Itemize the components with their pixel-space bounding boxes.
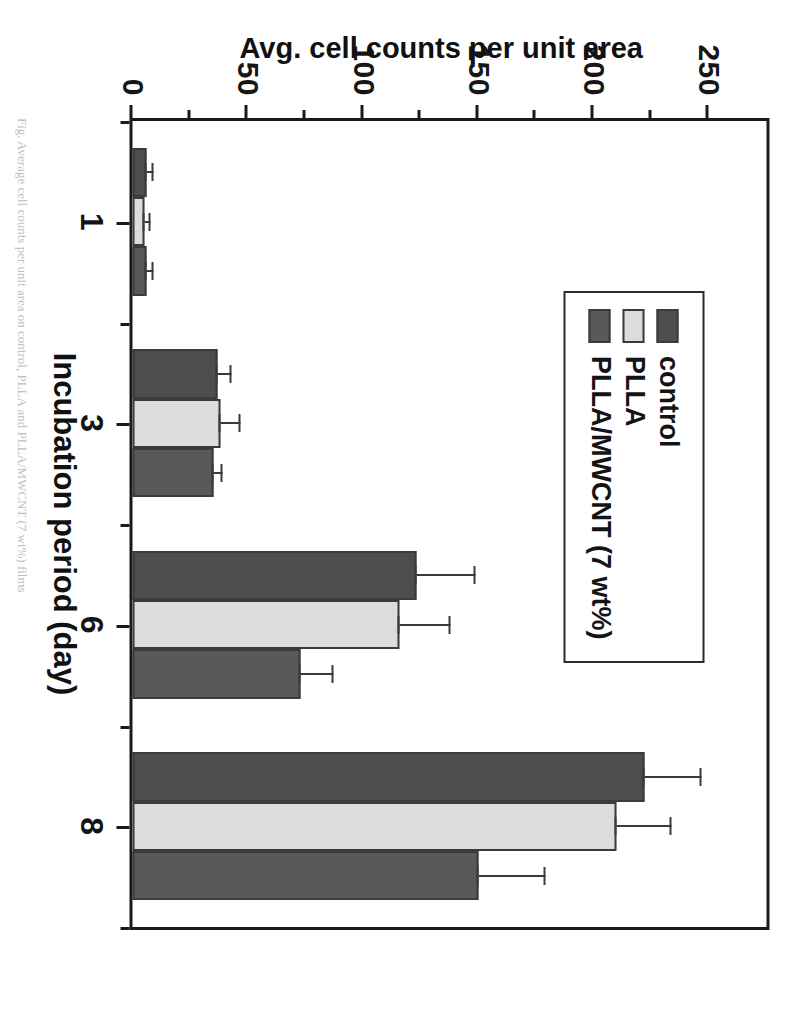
error-bar bbox=[144, 197, 151, 246]
legend-item-label: control bbox=[654, 356, 681, 448]
legend-item-label: PLLA bbox=[620, 356, 647, 427]
error-bar-cap bbox=[229, 365, 231, 383]
bar-chart-figure: controlPLLAPLLA/MWCNT (7 wt%) 0501001502… bbox=[0, 0, 799, 1010]
error-bar-cap bbox=[474, 566, 476, 584]
error-bar-cap bbox=[699, 768, 701, 786]
x-axis-tick bbox=[116, 826, 129, 829]
error-bar bbox=[217, 349, 231, 398]
y-axis-minor-tick bbox=[532, 110, 535, 118]
error-bar-cap-lower bbox=[614, 817, 616, 835]
legend-item[interactable]: PLLA bbox=[620, 309, 647, 639]
y-axis-minor-tick bbox=[302, 110, 305, 118]
y-axis-tick bbox=[244, 105, 247, 118]
error-bar bbox=[478, 851, 545, 900]
bar bbox=[132, 851, 478, 900]
x-axis-boundary-tick bbox=[120, 927, 129, 930]
y-axis-tick bbox=[705, 105, 708, 118]
y-axis-minor-tick bbox=[417, 110, 420, 118]
legend-swatch-icon bbox=[589, 309, 611, 343]
bar bbox=[132, 399, 220, 448]
error-bar-cap bbox=[148, 213, 150, 231]
error-bar-cap bbox=[238, 414, 240, 432]
x-axis-boundary-tick bbox=[120, 323, 129, 326]
error-bar-cap bbox=[151, 262, 153, 280]
error-bar-cap-lower bbox=[211, 464, 213, 482]
x-axis-boundary-tick bbox=[120, 121, 129, 124]
y-axis-tick bbox=[590, 105, 593, 118]
legend-swatch-icon bbox=[623, 309, 645, 343]
bar bbox=[132, 448, 213, 497]
error-bar-cap bbox=[220, 464, 222, 482]
error-bar-cap-lower bbox=[298, 665, 300, 683]
bar bbox=[132, 349, 217, 398]
error-bar-cap bbox=[331, 665, 333, 683]
error-bar-line bbox=[616, 825, 671, 827]
error-bar bbox=[300, 649, 332, 698]
error-bar-cap bbox=[543, 867, 545, 885]
x-axis-boundary-tick bbox=[120, 524, 129, 527]
legend-swatch-icon bbox=[657, 309, 679, 343]
error-bar-cap-lower bbox=[218, 414, 220, 432]
error-bar-line bbox=[644, 776, 702, 778]
error-bar-cap-lower bbox=[414, 566, 416, 584]
legend-item[interactable]: control bbox=[654, 309, 681, 639]
error-bar-line bbox=[416, 574, 476, 576]
y-axis-tick bbox=[475, 105, 478, 118]
plot-area: controlPLLAPLLA/MWCNT (7 wt%) bbox=[129, 118, 769, 930]
chart-legend: controlPLLAPLLA/MWCNT (7 wt%) bbox=[563, 291, 704, 663]
error-bar bbox=[146, 148, 153, 197]
error-bar-cap-lower bbox=[144, 163, 146, 181]
error-bar-cap-lower bbox=[476, 867, 478, 885]
error-bar-line bbox=[399, 624, 450, 626]
error-bar-line bbox=[220, 422, 241, 424]
bar bbox=[132, 649, 300, 698]
y-axis-minor-tick bbox=[187, 110, 190, 118]
error-bar-cap bbox=[669, 817, 671, 835]
bar bbox=[132, 600, 399, 649]
x-axis-tick bbox=[116, 222, 129, 225]
y-axis-tick-label: 0 bbox=[115, 79, 149, 96]
y-axis-tick bbox=[360, 105, 363, 118]
error-bar-cap bbox=[448, 616, 450, 634]
x-axis-boundary-tick bbox=[120, 726, 129, 729]
error-bar-cap-lower bbox=[397, 616, 399, 634]
figure-page: controlPLLAPLLA/MWCNT (7 wt%) 0501001502… bbox=[0, 0, 799, 1010]
error-bar bbox=[213, 448, 222, 497]
x-axis-tick bbox=[116, 625, 129, 628]
error-bar-cap-lower bbox=[144, 262, 146, 280]
legend-item-label: PLLA/MWCNT (7 wt%) bbox=[586, 356, 613, 639]
y-axis-title: Avg. cell counts per unit area bbox=[239, 32, 642, 65]
error-bar bbox=[644, 752, 702, 801]
figure-caption: Fig. Average cell counts per unit area o… bbox=[13, 118, 29, 998]
error-bar-cap-lower bbox=[215, 365, 217, 383]
error-bar bbox=[416, 551, 476, 600]
error-bar-cap-lower bbox=[642, 768, 644, 786]
error-bar bbox=[399, 600, 450, 649]
y-axis-tick bbox=[129, 105, 132, 118]
error-bar bbox=[616, 802, 671, 851]
bar bbox=[132, 752, 644, 801]
y-axis-tick-label: 250 bbox=[691, 44, 725, 96]
y-axis-minor-tick bbox=[648, 110, 651, 118]
error-bar-cap bbox=[151, 163, 153, 181]
legend-item[interactable]: PLLA/MWCNT (7 wt%) bbox=[586, 309, 613, 639]
x-axis-tick bbox=[116, 423, 129, 426]
bar bbox=[132, 802, 616, 851]
error-bar-cap-lower bbox=[142, 213, 144, 231]
bar bbox=[132, 551, 416, 600]
rotated-figure-wrapper: controlPLLAPLLA/MWCNT (7 wt%) 0501001502… bbox=[0, 0, 799, 1010]
y-axis-tick-label: 50 bbox=[230, 62, 264, 96]
error-bar bbox=[146, 246, 153, 295]
x-axis-title: Incubation period (day) bbox=[45, 118, 81, 930]
error-bar-line bbox=[300, 673, 332, 675]
error-bar bbox=[220, 399, 241, 448]
error-bar-line bbox=[478, 875, 545, 877]
